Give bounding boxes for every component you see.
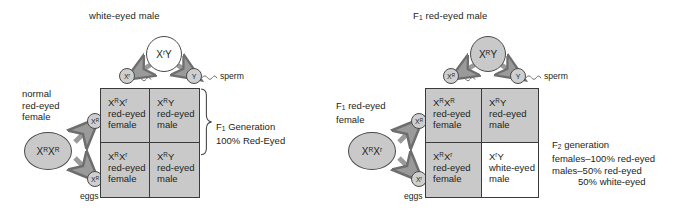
cross-two-eggs-label: eggs xyxy=(404,191,423,201)
cross-two-male-header: F1 red-eyed male xyxy=(413,10,487,21)
cross-two-sperm-gamete-1: XR xyxy=(443,68,459,84)
table-row: XRXr red-eyed female xyxy=(101,143,150,197)
table-row: XRY red-eyed male xyxy=(150,89,199,143)
cross-one-sperm-gamete-1: Xr xyxy=(119,68,135,84)
cross-one-male-genotype: XrY xyxy=(156,49,172,60)
table-row: XRXr red-eyed female xyxy=(426,143,482,197)
cross-two-flagella xyxy=(460,76,541,81)
table-row: XRY red-eyed male xyxy=(150,143,199,197)
table-row: XrY white-eyed male xyxy=(482,143,538,197)
cross-two-sperm-gamete-2: Y xyxy=(510,68,526,84)
table-row: XRXr red-eyed female xyxy=(101,89,150,143)
table-row: XRY red-eyed male xyxy=(482,89,538,143)
cross-one-sperm-label: sperm xyxy=(220,71,244,81)
cross-one-eggs-label: eggs xyxy=(80,191,99,201)
cross-two-punnett-square: XRXR red-eyed female XRY red-eyed male X… xyxy=(425,88,539,198)
cross-one-egg-arrows xyxy=(75,128,89,172)
cross-two-result: F2 generation females–100% red-eyed male… xyxy=(552,139,655,188)
cross-one-female-parent-circle: XRXR xyxy=(24,132,72,170)
cross-two-male-genotype: XRY xyxy=(479,49,497,60)
cross-one-flagella xyxy=(136,76,217,81)
cross-one-brace xyxy=(201,89,212,155)
cross-one-sperm-gamete-2: Y xyxy=(186,68,202,84)
cross-one-punnett-square: XRXr red-eyed female XRY red-eyed male X… xyxy=(100,88,200,198)
cross-two-sperm-label: sperm xyxy=(544,71,568,81)
cross-one-result: F1 Generation 100% Red-Eyed xyxy=(216,121,285,147)
cross-two-female-label: F1 red-eyed female xyxy=(336,100,386,126)
cross-one-female-label: normal red-eyed female xyxy=(22,88,60,123)
cross-one-male-parent-circle: XrY xyxy=(146,36,182,72)
cross-two-male-parent-circle: XRY xyxy=(470,36,506,72)
cross-two-female-parent-circle: XRXr xyxy=(348,132,396,170)
table-row: XRXR red-eyed female xyxy=(426,89,482,143)
cross-two-egg-arrows xyxy=(399,128,413,172)
cross-two-female-genotype: XRXr xyxy=(362,146,382,157)
cross-one-male-header: white-eyed male xyxy=(89,10,160,21)
figure-canvas: white-eyed male XrY Xr Y sperm normal re… xyxy=(0,0,675,214)
cross-one-female-genotype: XRXR xyxy=(37,146,60,157)
